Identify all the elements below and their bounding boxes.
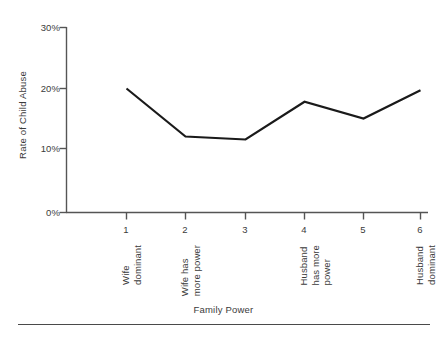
y-axis-ticks (60, 28, 67, 213)
x-category-description-2: Wife hasmore power (179, 245, 202, 296)
data-series-line (127, 89, 421, 140)
x-category-description-6-line1: Husband (414, 246, 425, 285)
x-category-description-1-line2: dominant (132, 245, 143, 285)
x-axis-title: Family Power (0, 304, 447, 315)
chart-figure: 30% 20% 10% 0% 1 2 3 4 5 6 Wifedominant … (0, 0, 447, 342)
y-tick-label-20: 20% (41, 83, 60, 94)
y-tick-label-10: 10% (41, 143, 60, 154)
x-tick-label-4: 4 (292, 224, 316, 235)
x-category-description-1-line1: Wife (120, 265, 131, 284)
y-tick-label-30: 30% (41, 22, 60, 33)
x-category-description-6-line2: dominant (426, 245, 437, 285)
x-category-description-6: Husbanddominant (414, 245, 437, 285)
y-axis-title: Rate of Child Abuse (17, 71, 28, 159)
x-category-description-4-line3: power (321, 259, 332, 285)
x-category-description-4-line2: has more (310, 245, 321, 285)
x-axis-ticks (127, 213, 421, 220)
x-category-description-2-line2: more power (191, 245, 202, 296)
footer-divider (18, 324, 430, 325)
x-tick-label-6: 6 (408, 224, 432, 235)
x-category-description-1: Wifedominant (120, 245, 143, 285)
y-tick-label-0: 0% (46, 207, 60, 218)
x-category-description-4: Husbandhas morepower (298, 245, 333, 285)
x-tick-label-3: 3 (233, 224, 257, 235)
line-chart-plot (0, 0, 447, 342)
x-tick-label-2: 2 (173, 224, 197, 235)
x-category-description-4-line1: Husband (298, 247, 309, 286)
x-tick-label-1: 1 (114, 224, 138, 235)
x-tick-label-5: 5 (351, 224, 375, 235)
x-category-description-2-line1: Wife has (179, 258, 190, 296)
